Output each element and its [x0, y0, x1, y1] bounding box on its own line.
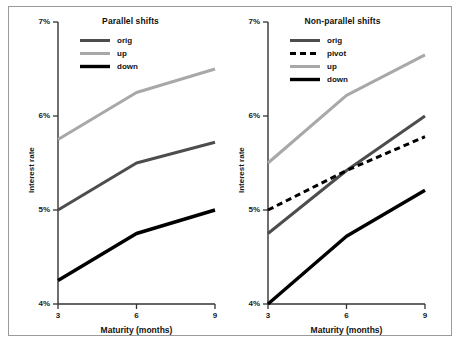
figure-root: Parallel shifts origupdown 4%5%6%7%369Ma…: [0, 0, 460, 354]
series-line-down: [58, 210, 215, 281]
x-tick-label: 9: [410, 311, 440, 320]
y-tick-label: 6%: [18, 111, 50, 120]
series-line-pivot: [268, 137, 425, 210]
legend-parallel: origupdown: [80, 34, 138, 73]
y-tick-label: 7%: [228, 17, 260, 26]
y-tick-label: 5%: [18, 205, 50, 214]
series-line-orig: [58, 142, 215, 210]
legend-item-up[interactable]: up: [290, 60, 348, 73]
x-tick-label: 9: [200, 311, 230, 320]
x-axis-label: Maturity (months): [268, 325, 425, 335]
x-tick-label: 3: [43, 311, 73, 320]
legend-label-up: up: [117, 48, 127, 59]
x-tick-label: 6: [332, 311, 362, 320]
x-axis-label: Maturity (months): [58, 325, 215, 335]
y-tick-label: 6%: [228, 111, 260, 120]
legend-item-orig[interactable]: orig: [290, 34, 348, 47]
legend-item-down[interactable]: down: [290, 73, 348, 86]
y-tick-label: 4%: [18, 299, 50, 308]
series-line-orig: [268, 116, 425, 234]
legend-item-up[interactable]: up: [80, 47, 138, 60]
legend-item-down[interactable]: down: [80, 60, 138, 73]
legend-swatch-orig-icon: [80, 35, 110, 46]
legend-label-orig: orig: [327, 35, 342, 46]
legend-swatch-down-icon: [290, 74, 320, 85]
legend-item-orig[interactable]: orig: [80, 34, 138, 47]
legend-label-down: down: [117, 61, 138, 72]
x-tick-label: 6: [122, 311, 152, 320]
legend-swatch-orig-icon: [290, 35, 320, 46]
y-tick-label: 4%: [228, 299, 260, 308]
legend-swatch-up-icon: [290, 61, 320, 72]
x-tick-label: 3: [253, 311, 283, 320]
legend-label-down: down: [327, 74, 348, 85]
legend-item-pivot[interactable]: pivot: [290, 47, 348, 60]
legend-swatch-up-icon: [80, 48, 110, 59]
legend-label-up: up: [327, 61, 337, 72]
y-axis-label: Interest rate: [237, 147, 246, 193]
series-line-down: [268, 190, 425, 304]
legend-label-pivot: pivot: [327, 48, 346, 59]
y-axis-label: Interest rate: [27, 147, 36, 193]
y-tick-label: 5%: [228, 205, 260, 214]
panel-parallel-shifts: Parallel shifts origupdown 4%5%6%7%369Ma…: [18, 0, 233, 336]
legend-label-orig: orig: [117, 35, 132, 46]
y-tick-label: 7%: [18, 17, 50, 26]
legend-swatch-pivot-icon: [290, 48, 320, 59]
panel-non-parallel-shifts: Non-parallel shifts origpivotupdown 4%5%…: [228, 0, 443, 336]
legend-swatch-down-icon: [80, 61, 110, 72]
legend-non-parallel: origpivotupdown: [290, 34, 348, 86]
series-line-up: [58, 69, 215, 140]
